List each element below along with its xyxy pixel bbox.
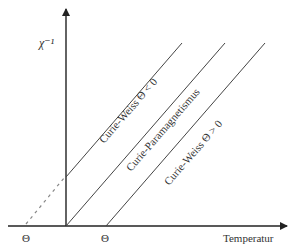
dashed-extrapolation [26, 178, 64, 224]
y-axis-label: χ⁻¹ [38, 36, 55, 50]
theta-positive-label: Θ [101, 232, 109, 244]
curie-weiss-diagram: Curie-Weiss Θ < 0 Curie-Paramagnetismus … [0, 0, 295, 249]
theta-negative-label: Θ [22, 232, 30, 244]
curie-weiss-positive-line [106, 43, 265, 226]
x-axis-label: Temperatur [223, 232, 274, 244]
